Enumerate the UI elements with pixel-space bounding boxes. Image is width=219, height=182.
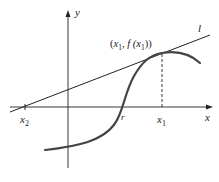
x-axis xyxy=(10,105,213,110)
x1-label: x1 xyxy=(156,113,166,128)
root-r-label: r xyxy=(121,112,125,122)
y-axis-arrow-icon xyxy=(66,10,71,17)
x-axis-arrow-icon xyxy=(206,105,213,110)
x2-label: x2 xyxy=(19,113,29,128)
y-axis-label: y xyxy=(74,6,80,18)
x-axis-label: x xyxy=(204,111,210,123)
newton-method-diagram: y x l x2 r x1 (x1, f (x1)) xyxy=(0,0,219,182)
tangent-line-label: l xyxy=(198,22,201,34)
tangent-point-label: (x1, f (x1)) xyxy=(110,38,152,52)
